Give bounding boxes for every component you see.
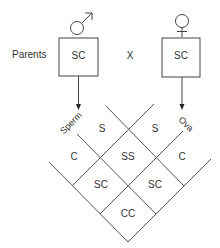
offspring-cc: CC [116,208,140,219]
ova-allele-c: C [176,151,188,162]
offspring-sc-left: SC [89,179,113,190]
sperm-allele-s: S [96,123,108,134]
male-genotype: SC [59,50,98,61]
cross-symbol: X [124,50,136,61]
offspring-ss: SS [116,151,140,162]
sperm-allele-c: C [68,151,80,162]
female-genotype: SC [162,50,200,61]
ova-label: Ova [175,113,196,134]
sperm-label: Sperm [57,109,85,137]
parents-label: Parents [12,49,46,60]
offspring-sc-right: SC [143,179,167,190]
ova-allele-s: S [149,123,161,134]
